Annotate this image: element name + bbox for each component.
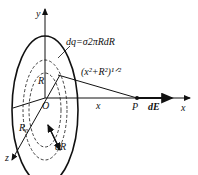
distance-line [58,75,137,98]
disk-radius-line [13,98,45,108]
ring-charge-label: dq=σ2πRdR [66,37,115,47]
disk-field-diagram: y dq=σ2πRdR (x²+R²)¹ᐟ² R O x P dE x R₀ d… [0,0,198,175]
distance-label: (x²+R²)¹ᐟ² [81,67,121,77]
z-axis-label: z [5,153,9,163]
origin-label: O [42,101,49,111]
radius-label: R [38,76,44,86]
z-axis [12,75,60,160]
disk-radius-label: R₀ [19,123,29,133]
x-axis-label: x [181,103,185,113]
point-p [135,96,139,100]
point-p-label: P [132,102,138,112]
x-distance-label: x [96,101,100,111]
field-label: dE [148,102,160,112]
ring-width-label: dR [55,142,66,152]
y-axis-label: y [36,9,40,19]
diagram-graphics [0,0,198,175]
